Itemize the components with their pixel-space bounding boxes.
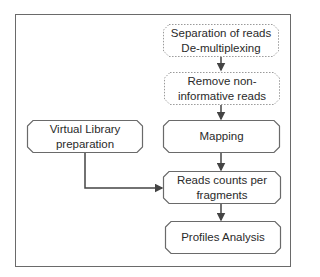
node-counts-line1: Reads counts per [177, 174, 267, 186]
node-separation-line2: De-multiplexing [181, 42, 260, 54]
node-remove: Remove non-informative reads [164, 72, 280, 105]
node-mapping-label: Mapping [199, 129, 243, 144]
node-virtual-library: Virtual Librarypreparation [27, 120, 143, 153]
node-remove-line1: Remove non- [187, 75, 256, 87]
node-separation: Separation of readsDe-multiplexing [163, 24, 279, 57]
node-counts-line2: fragments [196, 189, 247, 201]
node-profiles-analysis: Profiles Analysis [165, 221, 281, 254]
node-remove-line2: informative reads [178, 90, 266, 102]
node-profiles-label: Profiles Analysis [181, 230, 265, 245]
node-separation-line1: Separation of reads [171, 27, 271, 39]
arrow-virtual-to-counts [85, 153, 162, 188]
node-reads-counts: Reads counts perfragments [163, 171, 281, 204]
node-mapping: Mapping [163, 120, 280, 153]
node-virtual-line1: Virtual Library [50, 123, 121, 135]
node-virtual-line2: preparation [56, 138, 114, 150]
